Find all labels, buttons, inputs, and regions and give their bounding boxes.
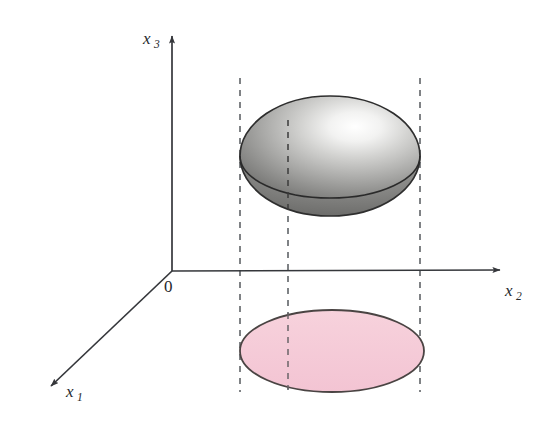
- x1-axis-label-subscript: 1: [77, 391, 83, 403]
- x3-axis-label: x: [142, 29, 151, 48]
- x1-axis-line: [51, 271, 172, 386]
- ellipsoid-upper-cap: [240, 96, 420, 198]
- x2-axis-label-subscript: 2: [516, 290, 522, 302]
- x3-axis-label-subscript: 3: [153, 38, 160, 50]
- projection-ellipse-group: [240, 310, 424, 392]
- x1-axis-label: x: [65, 382, 74, 401]
- origin-label: 0: [164, 277, 173, 296]
- x2-axis-label: x: [504, 281, 513, 300]
- pink-projection-ellipse: [240, 310, 424, 392]
- figure-root: x 3 x 2 x 1 0: [0, 0, 543, 425]
- x2-axis-line: [172, 270, 500, 271]
- ellipsoid-solid: [240, 96, 420, 216]
- ellipsoid-projection-figure: x 3 x 2 x 1 0: [0, 0, 543, 425]
